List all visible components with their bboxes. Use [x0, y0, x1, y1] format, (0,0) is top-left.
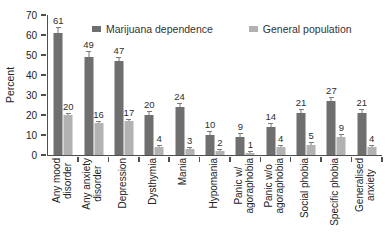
- bar-marijuana-dependence: 27: [327, 101, 336, 155]
- x-axis-label: Hypomania: [209, 158, 220, 209]
- bar-pair: 91: [236, 137, 255, 155]
- bar-marijuana-dependence: 20: [145, 115, 154, 155]
- error-bar: [329, 97, 334, 101]
- x-axis-label-cell: Depression: [108, 158, 138, 242]
- y-tick: [41, 54, 46, 56]
- x-axis-label-cell: Panic w/o agoraphobia: [260, 158, 290, 242]
- y-tick: [41, 34, 46, 36]
- value-label: 27: [326, 86, 337, 96]
- error-bar: [126, 119, 131, 121]
- error-bar-line: [331, 97, 332, 101]
- y-tick-label: 10: [26, 130, 37, 141]
- error-bar-line: [128, 119, 129, 121]
- error-bar: [56, 27, 61, 33]
- bar-marijuana-dependence: 24: [175, 107, 184, 155]
- bar-pair: 215: [297, 113, 316, 155]
- bar-pair: 102: [205, 135, 224, 155]
- x-axis-label: Social phobia: [300, 158, 311, 218]
- error-bar-line: [311, 142, 312, 145]
- bar-group: 4717: [109, 15, 139, 155]
- error-bar: [207, 131, 212, 135]
- y-tick: [41, 74, 46, 76]
- value-label: 49: [83, 40, 94, 50]
- y-axis: 010203040506070: [0, 15, 47, 155]
- bar-general-population: 4: [155, 147, 164, 155]
- bar-group: 4916: [78, 15, 108, 155]
- y-tick-label: 40: [26, 70, 37, 81]
- bar-marijuana-dependence: 21: [297, 113, 306, 155]
- value-label: 1: [248, 140, 253, 150]
- bar-pair: 4717: [114, 61, 133, 155]
- error-bar: [238, 133, 243, 137]
- value-label: 3: [187, 136, 192, 146]
- error-bar: [217, 149, 222, 151]
- value-label: 9: [339, 123, 344, 133]
- error-bar: [147, 111, 152, 115]
- plot-area: 61204916471720424310291144215279214 Mari…: [47, 15, 382, 156]
- bar-general-population: 2: [215, 151, 224, 155]
- y-tick-label: 70: [26, 10, 37, 21]
- error-bar-line: [118, 57, 119, 61]
- x-axis-label: Panic w/ agoraphobia: [234, 158, 255, 214]
- bar-general-population: 3: [185, 149, 194, 155]
- bar-general-population: 16: [94, 123, 103, 155]
- error-bar-line: [189, 147, 190, 149]
- error-bar: [369, 145, 374, 147]
- bar-general-population: 9: [337, 137, 346, 155]
- error-bar-line: [361, 109, 362, 113]
- bar-group: 214: [352, 15, 382, 155]
- bar-marijuana-dependence: 9: [236, 137, 245, 155]
- error-bar-line: [149, 111, 150, 115]
- value-label: 14: [265, 112, 276, 122]
- x-axis-label-cell: Hypomania: [199, 158, 229, 242]
- legend: Marijuana dependence General population: [92, 23, 352, 35]
- x-axis-label-cell: Any mood disorder: [47, 158, 77, 242]
- x-axis-label: Any mood disorder: [52, 158, 73, 203]
- value-label: 4: [157, 134, 162, 144]
- bar-group: 215: [291, 15, 321, 155]
- value-label: 4: [369, 134, 374, 144]
- error-bar: [86, 51, 91, 57]
- x-axis-label-cell: Panic w/ agoraphobia: [229, 158, 259, 242]
- bar-general-population: 17: [124, 121, 133, 155]
- bar-marijuana-dependence: 10: [205, 135, 214, 155]
- x-axis-label: Depression: [118, 158, 129, 209]
- x-axis-label-cell: Specific phobia: [320, 158, 350, 242]
- x-tick: [381, 157, 383, 162]
- error-bar: [96, 121, 101, 123]
- legend-marker-icon: [249, 26, 258, 32]
- bar-pair: 6120: [54, 33, 73, 155]
- y-tick-label: 30: [26, 90, 37, 101]
- y-tick-label: 20: [26, 110, 37, 121]
- bar-marijuana-dependence: 47: [114, 61, 123, 155]
- error-bar: [66, 113, 71, 115]
- bar-pair: 4916: [84, 57, 103, 155]
- value-label: 21: [296, 98, 307, 108]
- error-bar-line: [341, 134, 342, 137]
- value-label: 21: [356, 98, 367, 108]
- x-axis-label-cell: Dysthymia: [138, 158, 168, 242]
- error-bar-line: [98, 121, 99, 123]
- value-label: 10: [205, 120, 216, 130]
- y-tick: [41, 154, 46, 156]
- x-axis-label-cell: Generalised anxiety: [351, 158, 381, 242]
- value-label: 5: [308, 131, 313, 141]
- bar-group: 91: [230, 15, 260, 155]
- bar-pair: 279: [327, 101, 346, 155]
- y-tick-label: 60: [26, 30, 37, 41]
- bar-marijuana-dependence: 61: [54, 33, 63, 155]
- bar-group: 102: [200, 15, 230, 155]
- error-bar-line: [371, 145, 372, 147]
- value-label: 47: [114, 46, 125, 56]
- value-label: 4: [278, 134, 283, 144]
- bar-group: 6120: [48, 15, 78, 155]
- y-tick: [41, 114, 46, 116]
- value-label: 24: [174, 92, 185, 102]
- bar-general-population: 4: [367, 147, 376, 155]
- value-label: 20: [144, 100, 155, 110]
- value-label: 2: [217, 138, 222, 148]
- x-axis-label: Panic w/o agoraphobia: [264, 158, 285, 214]
- bar-group: 204: [139, 15, 169, 155]
- bar-general-population: 1: [246, 153, 255, 155]
- bar-marijuana-dependence: 21: [357, 113, 366, 155]
